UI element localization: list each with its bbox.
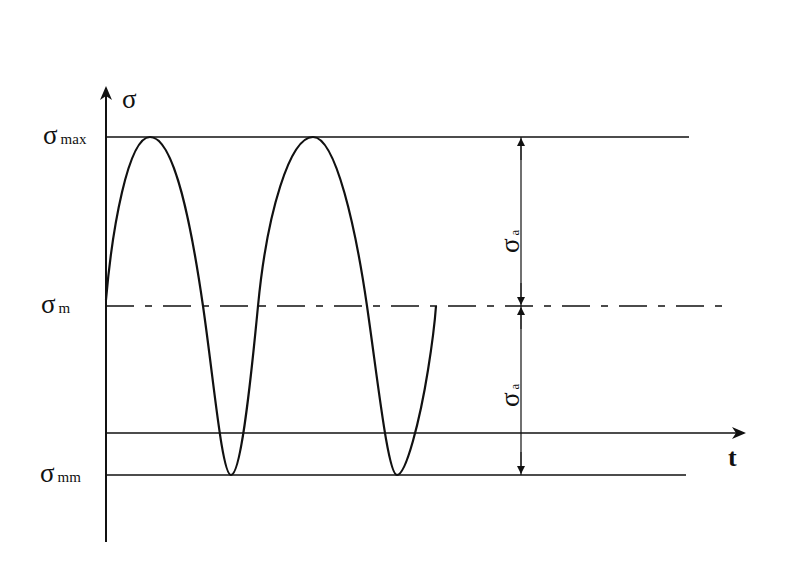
sigma-mean-subscript: m — [59, 300, 71, 316]
sigma-min-label: σmm — [40, 460, 81, 487]
sigma-min-subscript: mm — [58, 469, 81, 485]
sigma-a-upper-symbol: σ — [495, 238, 525, 253]
sigma-a-lower-subscript: a — [507, 384, 522, 390]
sigma-a-lower-symbol: σ — [495, 392, 525, 407]
sigma-a-lower-label: σa — [497, 367, 523, 407]
sigma-a-upper-subscript: a — [507, 230, 522, 236]
sigma-mean-label: σm — [41, 291, 70, 318]
sigma-max-subscript: max — [61, 131, 87, 147]
y-axis-label: σ — [122, 86, 137, 113]
stress-waveform — [106, 137, 436, 475]
stress-time-diagram — [0, 0, 786, 578]
x-axis-label: t — [728, 445, 737, 471]
x-axis-symbol: t — [728, 443, 737, 472]
sigma-mean-symbol: σ — [41, 289, 56, 319]
sigma-max-label: σmax — [43, 122, 86, 149]
sigma-min-symbol: σ — [40, 458, 55, 488]
y-axis-symbol: σ — [122, 84, 137, 114]
sigma-a-upper-label: σa — [497, 213, 523, 253]
sigma-max-symbol: σ — [43, 120, 58, 150]
